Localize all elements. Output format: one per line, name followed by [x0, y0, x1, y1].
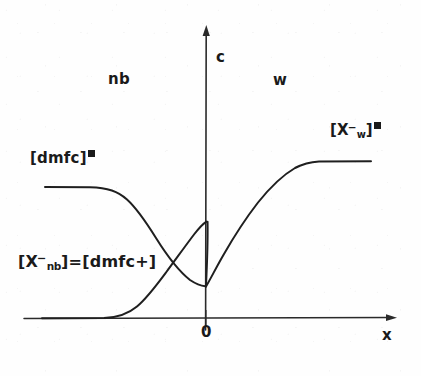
curve-dmfc	[45, 187, 205, 286]
curve-label-dmfc-text: [dmfc]	[30, 149, 87, 167]
origin-label: 0	[201, 325, 212, 340]
curve-label-x-w-subscript: w	[357, 129, 366, 140]
y-axis-arrowhead	[203, 25, 210, 36]
curve-label-x-w-minus: −	[348, 121, 357, 133]
curve-label-x-w: [X−w]	[330, 122, 381, 140]
x-axis-arrowhead	[386, 314, 397, 321]
curve-x-w	[206, 161, 371, 286]
y-axis-label: c	[216, 50, 225, 65]
curve-label-x-nb-suffix: ]	[149, 252, 157, 271]
curve-label-x-nb-middle: ]=[dmfc	[61, 252, 135, 271]
figure-root: c x 0 nb w [dmfc] [X−w] [X−nb]=[dmfc+]	[0, 0, 421, 376]
superscript-infinity-icon	[374, 122, 381, 129]
curve-label-x-nb-equals-dmfc-plus: [X−nb]=[dmfc+]	[18, 253, 156, 271]
curve-label-dmfc-plus-sign: +	[135, 252, 149, 271]
curve-label-x-nb-minus: −	[37, 252, 47, 265]
axes-group	[24, 25, 397, 330]
superscript-infinity-icon	[88, 150, 95, 157]
region-label-w: w	[273, 73, 287, 88]
figure-plot-area	[0, 0, 421, 376]
curve-label-x-w-prefix: [X	[330, 121, 349, 139]
curve-label-x-nb-prefix: [X	[18, 252, 38, 271]
curve-label-x-nb-subscript: nb	[47, 260, 61, 272]
x-axis-label: x	[382, 328, 392, 343]
curve-label-x-w-suffix: ]	[366, 121, 373, 139]
region-label-nb: nb	[108, 72, 130, 87]
curve-label-dmfc: [dmfc]	[30, 150, 95, 166]
